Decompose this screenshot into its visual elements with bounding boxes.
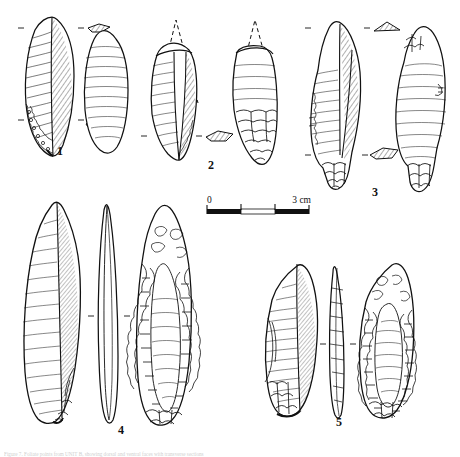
artifact-5-number-label: 5 (336, 415, 342, 429)
figure-canvas: 1 (0, 0, 460, 457)
artifact-2-number-label: 2 (208, 158, 214, 172)
scale-bar-segment-2 (241, 209, 275, 214)
artifact-1-ventral-view (84, 31, 128, 153)
scale-bar-segment-3 (275, 209, 309, 214)
figure-caption: Figure 7. Foliate points from UNIT B, sh… (4, 451, 456, 457)
artifact-4-number-label: 4 (118, 423, 124, 437)
scale-bar-start-label: 0 (207, 195, 212, 205)
artifact-4: 4 (23, 202, 201, 437)
artifact-1-number-label: 1 (57, 144, 63, 158)
artifact-3-number-label: 3 (372, 185, 378, 199)
scale-bar-end-label: 3 cm (292, 195, 311, 205)
artifact-1-ventral-outline (84, 31, 128, 153)
scale-bar-segment-1 (207, 209, 241, 214)
lithic-illustration-plate: 1 (0, 0, 460, 457)
